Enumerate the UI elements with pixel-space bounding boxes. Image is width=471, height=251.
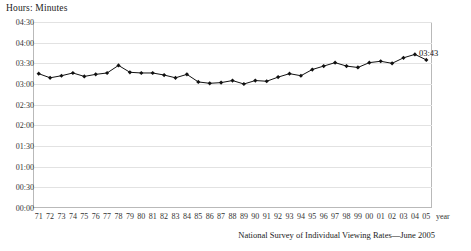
x-axis-tick-label: 91 bbox=[263, 212, 271, 221]
line-series bbox=[33, 22, 432, 208]
x-axis-tick-label: 94 bbox=[297, 212, 305, 221]
x-axis-tick-label: 97 bbox=[331, 212, 339, 221]
data-point-marker bbox=[59, 74, 63, 78]
data-point-marker bbox=[401, 56, 405, 60]
x-axis-tick-label: 72 bbox=[46, 212, 54, 221]
data-point-marker bbox=[253, 78, 257, 82]
x-axis-tick-label: 82 bbox=[160, 212, 168, 221]
x-axis-tick-label: 77 bbox=[103, 212, 111, 221]
x-axis-tick-label: 86 bbox=[206, 212, 214, 221]
data-point-marker bbox=[173, 76, 177, 80]
y-axis-tick-label: 00:30 bbox=[0, 183, 34, 192]
source-footnote: National Survey of Individual Viewing Ra… bbox=[238, 230, 435, 240]
x-axis-tick-label: 98 bbox=[343, 212, 351, 221]
data-point-marker bbox=[48, 76, 52, 80]
data-value-label: 03:43 bbox=[419, 48, 438, 58]
data-point-marker bbox=[287, 72, 291, 76]
x-axis-tick-label: 05 bbox=[422, 212, 430, 221]
plot-area bbox=[33, 22, 432, 208]
chart-container: Hours: Minutes 00:0000:3001:0001:3002:00… bbox=[0, 0, 471, 251]
data-point-marker bbox=[82, 74, 86, 78]
x-axis-tick-label: 85 bbox=[194, 212, 202, 221]
x-axis-tick-label: 90 bbox=[251, 212, 259, 221]
x-axis-tick-label: 78 bbox=[115, 212, 123, 221]
y-axis-tick-label: 01:30 bbox=[0, 142, 34, 151]
data-point-marker bbox=[367, 61, 371, 65]
x-axis-tick-label: 88 bbox=[229, 212, 237, 221]
data-point-marker bbox=[94, 72, 98, 76]
x-axis-tick-label: 89 bbox=[240, 212, 248, 221]
x-axis-tick-label: 84 bbox=[183, 212, 191, 221]
y-axis-tick-label: 02:00 bbox=[0, 121, 34, 130]
data-point-marker bbox=[356, 65, 360, 69]
data-point-marker bbox=[424, 58, 428, 62]
data-point-marker bbox=[310, 67, 314, 71]
x-axis-tick-label: 71 bbox=[35, 212, 43, 221]
y-axis-tick-label: 01:00 bbox=[0, 162, 34, 171]
y-axis-tick-label: 03:00 bbox=[0, 80, 34, 89]
x-axis-tick-label: 99 bbox=[354, 212, 362, 221]
data-point-marker bbox=[413, 52, 417, 56]
x-axis-tick-label: 92 bbox=[274, 212, 282, 221]
x-axis-tick-label: 00 bbox=[365, 212, 373, 221]
x-axis-tick-label: 93 bbox=[286, 212, 294, 221]
x-axis-tick-label: 80 bbox=[137, 212, 145, 221]
x-axis-tick-label: 73 bbox=[58, 212, 66, 221]
data-point-marker bbox=[322, 64, 326, 68]
data-point-marker bbox=[219, 81, 223, 85]
data-point-marker bbox=[265, 79, 269, 83]
data-point-marker bbox=[344, 64, 348, 68]
data-point-marker bbox=[230, 78, 234, 82]
x-axis-tick-label: 74 bbox=[69, 212, 77, 221]
data-point-marker bbox=[242, 82, 246, 86]
x-axis-tick-label: 02 bbox=[388, 212, 396, 221]
data-point-marker bbox=[208, 81, 212, 85]
x-axis-unit-label: year bbox=[436, 212, 450, 221]
data-point-marker bbox=[71, 71, 75, 75]
x-axis-tick-label: 76 bbox=[92, 212, 100, 221]
y-axis-tick-label: 04:30 bbox=[0, 18, 34, 27]
x-axis-tick-label: 87 bbox=[217, 212, 225, 221]
x-axis-tick-label: 81 bbox=[149, 212, 157, 221]
y-axis-tick-label: 00:00 bbox=[0, 204, 34, 213]
data-point-marker bbox=[390, 61, 394, 65]
y-axis-tick-label: 03:30 bbox=[0, 59, 34, 68]
data-point-marker bbox=[139, 71, 143, 75]
x-axis-tick-label: 03 bbox=[400, 212, 408, 221]
x-axis-tick-label: 95 bbox=[308, 212, 316, 221]
data-point-marker bbox=[299, 74, 303, 78]
x-axis-tick-label: 01 bbox=[377, 212, 385, 221]
data-point-marker bbox=[379, 59, 383, 63]
x-axis-tick-label: 79 bbox=[126, 212, 134, 221]
y-axis-tick-label: 04:00 bbox=[0, 38, 34, 47]
x-axis-tick-label: 75 bbox=[80, 212, 88, 221]
data-point-marker bbox=[333, 61, 337, 65]
y-axis-title: Hours: Minutes bbox=[6, 3, 67, 13]
y-axis-tick-label: 02:30 bbox=[0, 100, 34, 109]
data-point-marker bbox=[162, 73, 166, 77]
data-point-marker bbox=[37, 72, 41, 76]
x-axis-tick-label: 83 bbox=[172, 212, 180, 221]
x-axis-tick-label: 96 bbox=[320, 212, 328, 221]
data-point-marker bbox=[276, 75, 280, 79]
data-point-marker bbox=[151, 71, 155, 75]
x-axis-tick-label: 04 bbox=[411, 212, 419, 221]
